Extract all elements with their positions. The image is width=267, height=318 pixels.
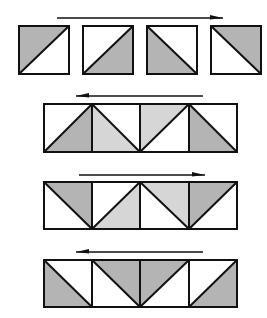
row-3 [44,172,237,229]
triangle-tiling-diagram [0,0,267,318]
tile-3 [140,104,189,152]
tile-2 [92,260,140,307]
arrow-head [76,93,89,98]
diagram-canvas [0,0,267,318]
arrow-head [192,172,205,177]
tile-2 [83,26,133,74]
tile-1 [44,182,92,229]
arrow-right-icon [57,15,223,20]
tile-2 [92,182,140,229]
tile-3 [140,260,189,307]
tile-1 [44,104,92,152]
arrow-left-icon [76,249,203,254]
tile-3 [140,182,189,229]
arrow-left-icon [76,93,203,98]
tile-2 [92,104,140,152]
row-4 [44,249,237,307]
arrow-right-icon [79,172,205,177]
arrow-head [76,249,89,254]
arrow-head [210,15,223,20]
tile-1 [19,26,69,74]
row-1 [19,15,261,74]
tile-4 [189,182,237,229]
row-2 [44,93,237,152]
tile-3 [147,26,197,74]
tile-4 [211,26,261,74]
tile-1 [44,260,92,307]
tile-4 [189,104,237,152]
tile-4 [189,260,237,307]
